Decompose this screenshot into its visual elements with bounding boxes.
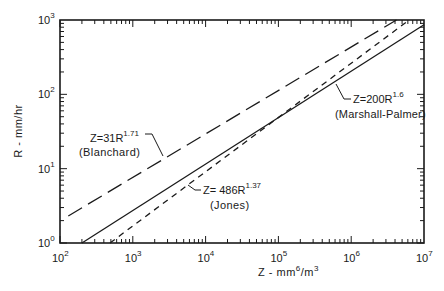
svg-text:Z=200R1.6: Z=200R1.6 (353, 90, 404, 105)
svg-text:Z=31R1.71: Z=31R1.71 (90, 129, 139, 144)
svg-text:103: 103 (38, 11, 55, 26)
svg-text:104: 104 (198, 249, 215, 264)
x-axis-label: Z - mm6/m3 (258, 264, 319, 278)
svg-text:107: 107 (416, 249, 433, 264)
svg-text:(Jones): (Jones) (210, 199, 249, 211)
svg-text:101: 101 (38, 160, 55, 175)
jones-annotation: Z= 486R1.37 (Jones) (188, 181, 262, 211)
blanchard-annotation: Z=31R1.71 (Blanchard) (79, 129, 163, 158)
svg-text:102: 102 (52, 249, 69, 264)
jones-line (110, 20, 409, 243)
y-axis-tick-labels: 100101102103 (38, 11, 55, 249)
marshall-palmer-leader-line (336, 84, 351, 99)
marshall-palmer-annotation: Z=200R1.6 (Marshall-Palmer) (335, 84, 426, 120)
jones-leader-line (188, 185, 201, 190)
rain-rate-vs-reflectivity-chart: 102103104105106107 100101102103 Z - mm6/… (0, 0, 444, 291)
blanchard-leader-line (145, 134, 163, 156)
svg-text:105: 105 (270, 249, 287, 264)
svg-text:(Blanchard): (Blanchard) (79, 146, 140, 158)
svg-text:(Marshall-Palmer): (Marshall-Palmer) (335, 108, 426, 120)
svg-text:102: 102 (38, 85, 55, 100)
svg-text:106: 106 (343, 249, 360, 264)
svg-text:103: 103 (125, 249, 142, 264)
x-axis-tick-labels: 102103104105106107 (52, 249, 433, 264)
svg-text:Z= 486R1.37: Z= 486R1.37 (203, 181, 262, 196)
y-axis-label: R - mm/hr (12, 104, 24, 157)
svg-text:100: 100 (38, 234, 55, 249)
